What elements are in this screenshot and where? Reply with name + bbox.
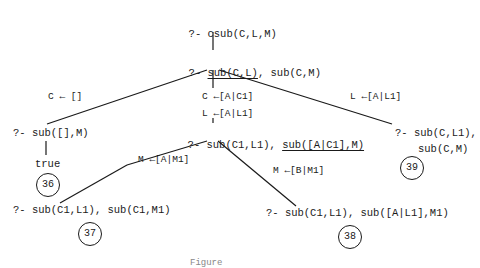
root-goal: ?- csub(C,L,M) <box>176 16 277 40</box>
binding-left: C ← [] <box>48 91 82 102</box>
node-number-38: 38 <box>338 225 362 249</box>
level1-goal: ?- sub(C,L), sub(C,M) <box>176 55 321 79</box>
binding-right: L ←[A|L1] <box>350 91 401 102</box>
binding-middle-right: M ←[B|M1] <box>273 165 324 176</box>
figure-caption: Figure <box>190 258 222 268</box>
node-left: ?- sub([],M) <box>13 127 89 139</box>
node-middle-left: ?- sub(C1,L1), sub(C1,M1) <box>13 204 171 216</box>
node-number-36: 36 <box>36 173 60 197</box>
binding-middle-1: C ←[A|C1] <box>202 91 253 102</box>
node-middle: ?- sub(C1,L1), sub([A|C1],M) <box>175 127 364 151</box>
binding-middle-2: L ←[A|L1] <box>202 108 253 119</box>
edge-middle-left-b <box>60 165 127 203</box>
node-right-line2: sub(C,M) <box>418 143 468 155</box>
node-number-39: 39 <box>400 156 424 180</box>
selected-subgoal: sub(C,L) <box>208 67 258 79</box>
node-number-37: 37 <box>78 222 102 246</box>
selected-subgoal-middle: sub([A|C1],M) <box>282 139 364 151</box>
node-right-line1: ?- sub(C,L1), <box>395 127 477 139</box>
node-left-result: true <box>35 158 60 170</box>
node-middle-right: ?- sub(C1,L1), sub([A|L1],M1) <box>266 207 449 219</box>
binding-middle-left: M ←[A|M1] <box>138 154 189 165</box>
